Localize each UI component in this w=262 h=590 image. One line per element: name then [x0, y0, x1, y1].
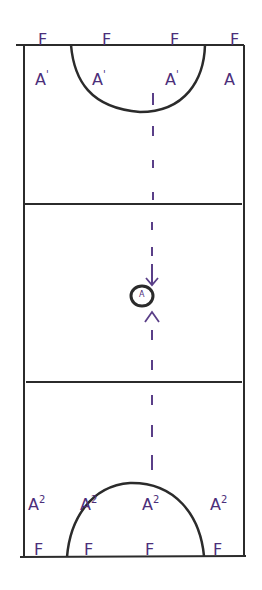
bottom-a-2: A2 [80, 497, 97, 513]
top-f-4: F [230, 32, 239, 48]
bottom-f-4: F [213, 542, 222, 558]
top-f-1: F [38, 32, 47, 48]
top-f-3: F [170, 32, 179, 48]
top-a-1: A' [35, 72, 49, 88]
top-a-2: A' [92, 72, 106, 88]
top-a-4: A [224, 72, 235, 88]
bottom-f-1: F [34, 542, 43, 558]
bottom-a-3: A2 [142, 497, 159, 513]
bottom-f-3: F [145, 542, 154, 558]
top-a-3: A' [165, 72, 179, 88]
top-f-2: F [102, 32, 111, 48]
bottom-a-1: A2 [28, 497, 45, 513]
arrow-up-icon [145, 312, 159, 322]
center-label: A [139, 291, 144, 299]
bottom-a-4: A2 [210, 497, 227, 513]
bottom-f-2: F [84, 542, 93, 558]
